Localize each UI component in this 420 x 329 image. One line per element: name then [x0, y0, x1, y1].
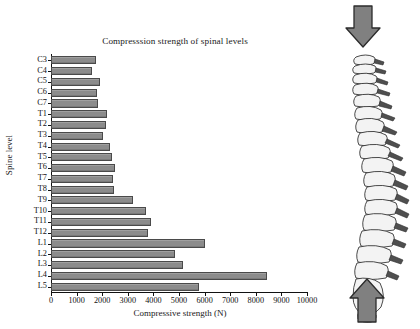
x-tick-label-7000: 7000 [222, 296, 238, 305]
bar-row: T3 [51, 132, 307, 140]
bar-row: L4 [51, 272, 307, 280]
y-tick-label-t3: T3 [38, 131, 47, 139]
bar-t2 [51, 121, 106, 129]
bar-chart-panel: Compresssion strength of spinal levels S… [0, 0, 312, 329]
bar-row: T12 [51, 229, 307, 237]
bar-row: C6 [51, 89, 307, 97]
bar-row: T11 [51, 218, 307, 226]
x-tick [102, 292, 103, 296]
y-tick [48, 82, 51, 83]
x-tick-label-8000: 8000 [248, 296, 264, 305]
plot-area: C3C4C5C6C7T1T2T3T4T5T6T7T8T9T10T11T12L1L… [51, 55, 307, 292]
bar-t9 [51, 196, 133, 204]
bar-row: T5 [51, 153, 307, 161]
bar-row: T1 [51, 110, 307, 118]
y-tick-label-l2: L2 [38, 250, 47, 258]
bar-t11 [51, 218, 151, 226]
x-tick-label-2000: 2000 [94, 296, 110, 305]
bar-t4 [51, 143, 110, 151]
x-tick [128, 292, 129, 296]
x-tick [153, 292, 154, 296]
y-tick [48, 71, 51, 72]
y-tick [48, 200, 51, 201]
bar-row: L5 [51, 283, 307, 291]
y-tick-label-t6: T6 [38, 163, 47, 171]
x-tick [205, 292, 206, 296]
x-tick [77, 292, 78, 296]
y-tick [48, 114, 51, 115]
x-tick [51, 292, 52, 296]
bar-t10 [51, 207, 146, 215]
downward-compression-arrow [346, 6, 380, 47]
y-tick [48, 287, 51, 288]
chart-title: Compresssion strength of spinal levels [55, 36, 295, 46]
x-tick [281, 292, 282, 296]
y-tick-label-l1: L1 [38, 239, 47, 247]
y-tick [48, 103, 51, 104]
bar-c3 [51, 56, 96, 64]
y-tick [48, 136, 51, 137]
x-tick-label-0: 0 [49, 296, 53, 305]
bar-t6 [51, 164, 115, 172]
y-tick-label-t10: T10 [34, 207, 47, 215]
x-tick [179, 292, 180, 296]
y-tick-label-t2: T2 [38, 120, 47, 128]
bar-row: T10 [51, 207, 307, 215]
x-tick-label-6000: 6000 [196, 296, 212, 305]
y-tick [48, 254, 51, 255]
bar-row: T4 [51, 143, 307, 151]
y-tick [48, 157, 51, 158]
y-tick-label-c5: C5 [37, 77, 47, 85]
y-tick [48, 222, 51, 223]
bar-t8 [51, 186, 114, 194]
bar-t7 [51, 175, 113, 183]
y-tick-label-t4: T4 [38, 142, 47, 150]
y-tick-label-c3: C3 [37, 56, 47, 64]
y-tick-label-t1: T1 [38, 110, 47, 118]
y-tick [48, 179, 51, 180]
y-tick-label-c4: C4 [37, 67, 47, 75]
y-tick-label-t5: T5 [38, 153, 47, 161]
y-tick-label-l3: L3 [38, 260, 47, 268]
bar-row: C4 [51, 67, 307, 75]
y-tick-label-t12: T12 [34, 228, 47, 236]
bar-c6 [51, 89, 97, 97]
y-tick [48, 233, 51, 234]
y-tick [48, 125, 51, 126]
bar-t5 [51, 153, 112, 161]
x-tick [230, 292, 231, 296]
bar-row: L3 [51, 261, 307, 269]
y-tick-label-l5: L5 [38, 282, 47, 290]
y-tick [48, 168, 51, 169]
x-tick-label-9000: 9000 [273, 296, 289, 305]
x-tick-label-4000: 4000 [145, 296, 161, 305]
y-tick-label-t7: T7 [38, 174, 47, 182]
y-tick [48, 60, 51, 61]
y-tick-label-t11: T11 [34, 217, 47, 225]
bar-row: C3 [51, 56, 307, 64]
x-tick-label-3000: 3000 [120, 296, 136, 305]
bar-l3 [51, 261, 183, 269]
bar-t1 [51, 110, 107, 118]
y-tick [48, 265, 51, 266]
bar-t12 [51, 229, 148, 237]
x-tick-label-5000: 5000 [171, 296, 187, 305]
bar-t3 [51, 132, 103, 140]
x-tick-label-1000: 1000 [68, 296, 84, 305]
bar-l2 [51, 250, 175, 258]
y-tick-label-c6: C6 [37, 88, 47, 96]
x-tick [256, 292, 257, 296]
bar-l5 [51, 283, 199, 291]
bar-row: T2 [51, 121, 307, 129]
bar-row: T7 [51, 175, 307, 183]
bar-row: L2 [51, 250, 307, 258]
bar-c7 [51, 99, 98, 107]
bar-c4 [51, 67, 92, 75]
bar-row: C7 [51, 99, 307, 107]
y-axis-label: Spine level [4, 115, 14, 195]
y-tick [48, 147, 51, 148]
y-tick [48, 93, 51, 94]
bar-l4 [51, 272, 267, 280]
vertebral-column [353, 55, 398, 322]
y-tick-label-t8: T8 [38, 185, 47, 193]
